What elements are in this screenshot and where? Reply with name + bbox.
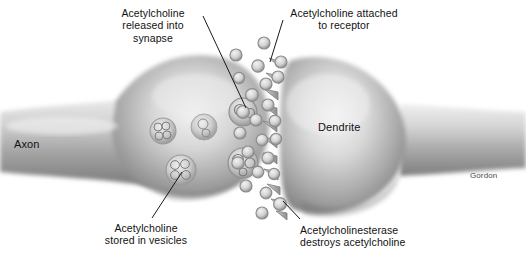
axon-terminal-group [0,55,269,200]
acetylcholine-molecule [258,37,270,49]
acetylcholine-molecule [234,127,246,139]
label-acetylcholinesterase: Acetylcholinesterase destroys acetylchol… [300,224,450,249]
acetylcholine-molecule-degraded [274,198,287,211]
acetylcholine-molecule [270,133,281,144]
acetylcholine-molecule [262,152,274,164]
acetylcholine-molecule [268,168,279,179]
acetylcholine-molecule [260,78,272,90]
acetylcholine-molecule [275,56,287,68]
dendrite-tail [400,104,526,176]
terminal-highlight [152,74,240,118]
acetylcholine-molecule [233,72,244,83]
label-dendrite: Dendrite [318,121,360,133]
label-acetylcholine-attached: Acetylcholine attached to receptor [278,7,410,32]
acetylcholine-molecule [240,180,252,192]
acetylcholine-molecule [252,166,264,178]
acetylcholine-molecule [242,146,254,158]
acetylcholine-molecule [252,60,264,72]
acetylcholine-molecule [256,207,268,219]
acetylcholine-molecule [250,114,262,126]
axon-highlight [6,117,118,135]
label-acetylcholine-released: Acetylcholine released into synapse [97,7,209,44]
receptor-icon [276,211,287,220]
acetylcholine-molecule [256,134,268,146]
label-axon: Axon [14,138,39,150]
synapse-illustration: Acetylcholine released into synapse Acet… [0,0,526,266]
acetylcholine-molecule [262,99,274,111]
acetylcholine-molecule [260,187,272,199]
acetylcholine-molecule [269,115,281,127]
vesicle [166,155,196,185]
acetylcholine-molecule [272,71,284,83]
receptor-icon [264,89,278,100]
dendrite-group [280,57,526,217]
vesicle [150,118,176,144]
acetylcholine-molecule [230,49,242,61]
vesicle [191,114,217,140]
label-acetylcholine-stored: Acetylcholine stored in vesicles [82,222,210,247]
acetylcholine-molecule [232,157,244,169]
acetylcholine-molecule [237,106,250,119]
artist-signature: Gordon [470,170,497,182]
acetylcholine-molecule [246,89,259,102]
